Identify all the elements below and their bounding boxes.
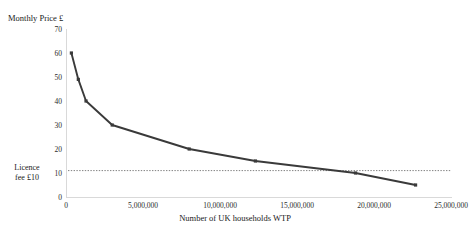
data-point-marker: [414, 183, 417, 186]
data-point-marker: [84, 99, 87, 102]
x-axis-title: Number of UK households WTP: [0, 213, 470, 223]
data-point-marker: [70, 51, 73, 54]
data-point-marker: [188, 147, 191, 150]
plot-svg: [0, 0, 470, 233]
data-point-marker: [254, 159, 257, 162]
data-point-marker: [77, 78, 80, 81]
chart-container: Monthly Price £ 70 60 50 40 30 20 10 0 L…: [0, 0, 470, 233]
demand-curve-markers: [70, 51, 417, 186]
data-point-marker: [111, 123, 114, 126]
data-point-marker: [354, 171, 357, 174]
demand-curve-line: [71, 53, 415, 185]
